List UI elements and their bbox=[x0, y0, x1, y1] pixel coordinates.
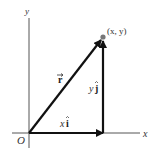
y-axis-label: y bbox=[24, 6, 29, 16]
x-axis-label: x bbox=[142, 128, 148, 139]
x-component-label: x i bbox=[59, 117, 69, 130]
point-marker bbox=[100, 34, 105, 39]
svg-text:y: y bbox=[88, 83, 94, 94]
svg-text:x: x bbox=[59, 118, 65, 129]
r-vector-label: r bbox=[57, 74, 63, 86]
vector-diagram: x y O (x, y) r x i y j bbox=[0, 0, 156, 160]
y-component-label: y j bbox=[88, 82, 98, 95]
svg-text:i: i bbox=[66, 118, 69, 129]
origin-label: O bbox=[17, 134, 25, 146]
point-label: (x, y) bbox=[107, 26, 127, 36]
svg-text:j: j bbox=[94, 83, 98, 94]
